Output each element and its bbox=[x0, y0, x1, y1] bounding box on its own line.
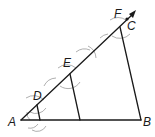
parallel-from-E bbox=[70, 74, 80, 120]
segment-CB bbox=[120, 27, 141, 120]
arc-between-D-E bbox=[44, 78, 56, 86]
parallel-from-D bbox=[37, 105, 40, 120]
arc-E-lower bbox=[60, 82, 80, 89]
compass-arcs bbox=[26, 17, 130, 131]
arc-at-A-base bbox=[28, 124, 38, 128]
label-C: C bbox=[127, 19, 136, 33]
geometry-diagram: A B C D E F bbox=[0, 0, 155, 137]
label-E: E bbox=[63, 56, 72, 70]
arc-D-foot bbox=[32, 126, 46, 131]
label-D: D bbox=[33, 89, 42, 103]
label-F: F bbox=[114, 7, 122, 21]
arc-F-lower bbox=[112, 34, 130, 38]
arc-E-F-3 bbox=[100, 34, 108, 38]
label-B: B bbox=[143, 115, 151, 129]
label-A: A bbox=[7, 115, 16, 129]
arc-E-F-1 bbox=[76, 49, 90, 52]
